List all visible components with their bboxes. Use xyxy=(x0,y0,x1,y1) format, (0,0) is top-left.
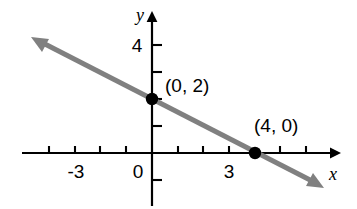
point-label-0-2: (0, 2) xyxy=(165,76,209,95)
x-tick-label-zero: 0 xyxy=(133,162,144,181)
x-tick-label-3: 3 xyxy=(224,162,235,181)
point-label-4-0: (4, 0) xyxy=(254,116,298,135)
x-axis-name-label: x xyxy=(329,165,337,183)
y-axis-arrow-icon xyxy=(147,11,158,22)
point-marker-4-0 xyxy=(249,147,261,159)
y-axis-name-label: y xyxy=(136,6,144,24)
x-axis-arrow-icon xyxy=(330,148,341,159)
y-tick-label-4: 4 xyxy=(132,36,143,55)
point-marker-0-2 xyxy=(146,93,158,105)
graph-figure: y x 4 -3 0 3 (0, 2) (4, 0) xyxy=(0,0,357,209)
y-axis-ticks xyxy=(152,45,162,180)
x-tick-label-neg3: -3 xyxy=(68,162,85,181)
y-axis xyxy=(147,11,158,206)
coordinate-plane-svg xyxy=(0,0,357,209)
x-axis xyxy=(22,148,341,159)
